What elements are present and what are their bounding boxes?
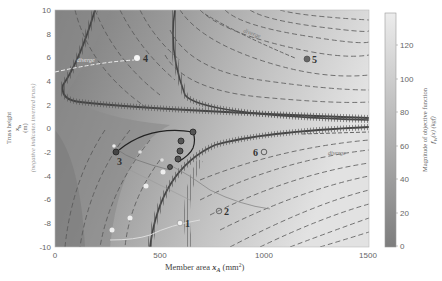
svg-text:4: 4: [47, 77, 52, 86]
y-axis-ticks: 10 8 6 4 2 0 -2 -4 -6 -8 -10: [39, 6, 51, 252]
svg-text:100: 100: [400, 75, 414, 84]
svg-text:40: 40: [400, 175, 409, 184]
svg-text:120: 120: [400, 41, 414, 50]
svg-text:0: 0: [47, 124, 52, 133]
svg-text:fW(x) (kgf): fW(x) (kgf): [429, 116, 438, 143]
svg-text:10: 10: [42, 6, 51, 15]
svg-text:2: 2: [224, 206, 229, 217]
svg-text:20: 20: [400, 209, 409, 218]
y-axis-label: Truss height xh (m) (negative indicates …: [5, 84, 37, 173]
svg-text:-10: -10: [39, 243, 51, 252]
svg-text:60: 60: [400, 142, 409, 151]
contour-figure: 1 2 3 4 5 6 diverge diverge diverge 10: [0, 0, 442, 281]
svg-text:8: 8: [47, 30, 52, 39]
svg-text:(m): (m): [21, 123, 29, 132]
diverge-annotation-4: diverge: [77, 57, 95, 63]
svg-text:Truss height: Truss height: [5, 112, 12, 144]
x-axis-label: Member area xA (mm2): [165, 262, 244, 273]
svg-text:-8: -8: [44, 219, 52, 228]
svg-text:6: 6: [47, 53, 52, 62]
colorbar: 0 20 40 60 80 100 120: [385, 13, 414, 251]
svg-text:5: 5: [312, 54, 317, 65]
x-axis-ticks: 0 500 1000 1500: [53, 251, 378, 260]
svg-text:2: 2: [47, 101, 52, 110]
svg-text:(negative indicates inverted t: (negative indicates inverted truss): [29, 84, 37, 173]
svg-text:1000: 1000: [255, 251, 273, 260]
plot-area: 1 2 3 4 5 6 diverge diverge diverge: [55, 10, 370, 247]
svg-text:500: 500: [153, 251, 167, 260]
svg-text:0: 0: [53, 251, 58, 260]
svg-text:80: 80: [400, 108, 409, 117]
svg-text:3: 3: [117, 156, 122, 167]
svg-text:0: 0: [400, 242, 405, 251]
svg-text:1500: 1500: [359, 251, 377, 260]
svg-text:1: 1: [185, 218, 190, 229]
svg-text:Magnitude of objective functio: Magnitude of objective function: [421, 87, 428, 172]
svg-text:-2: -2: [44, 148, 52, 157]
colorbar-label: Magnitude of objective function fW(x) (k…: [421, 87, 438, 172]
svg-text:6: 6: [253, 147, 258, 158]
diverge-annotation-6: diverge: [328, 150, 346, 156]
svg-text:-4: -4: [44, 172, 52, 181]
svg-text:-6: -6: [44, 195, 52, 204]
svg-text:4: 4: [143, 53, 148, 64]
